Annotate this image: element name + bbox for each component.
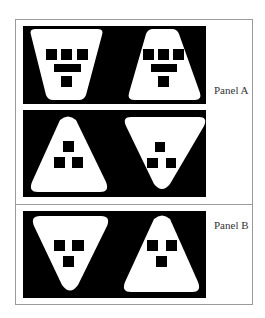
panel-a-label: Panel A [214,84,249,96]
panel-b-row-1 [23,211,206,298]
panel-a-row-2 [23,110,206,197]
panel-b-label: Panel B [214,219,249,231]
stimulus-figure [0,0,265,318]
panel-a-row-1 [23,26,206,104]
